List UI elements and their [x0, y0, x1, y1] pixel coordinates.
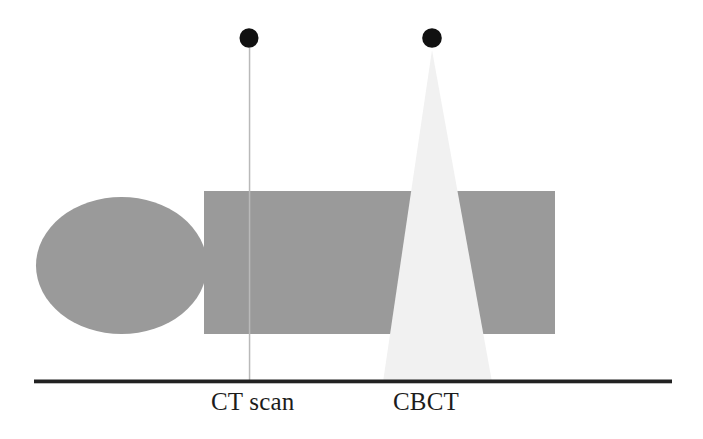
figure-diagram [0, 0, 703, 439]
detector-baseline [34, 380, 672, 384]
cbct-xray-source-dot [422, 28, 442, 48]
ct-scan-label: CT scan [211, 389, 295, 414]
patient-body-rectangle [204, 191, 555, 334]
ct-fan-beam-line [249, 48, 251, 381]
patient-head-ellipse [36, 197, 207, 334]
figure-canvas: CT scan CBCT [0, 0, 703, 439]
ct-xray-source-dot [240, 28, 259, 48]
cbct-label: CBCT [393, 389, 459, 414]
